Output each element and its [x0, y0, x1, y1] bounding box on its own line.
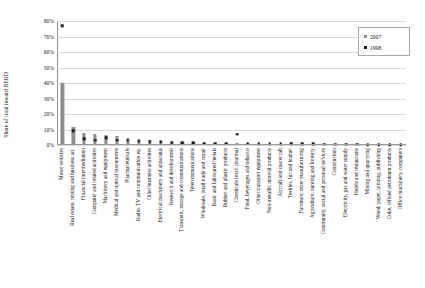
x-tick-label: Other business activities — [147, 148, 153, 200]
category-slot — [188, 21, 199, 145]
x-tick-label: Machinery and equipment — [103, 148, 109, 204]
x-label-slot: Aircraft and spacecraft — [275, 148, 286, 286]
x-axis-line — [57, 144, 406, 145]
x-tick-label: Rubber and plastic products — [223, 148, 229, 207]
category-slot — [319, 21, 330, 145]
x-tick-label: Pharmaceuticals — [125, 148, 131, 183]
y-tick-label: 50% — [14, 65, 54, 71]
x-label-slot: Machinery and equipment — [101, 148, 112, 286]
category-slot — [341, 21, 352, 145]
category-slot — [155, 21, 166, 145]
category-slot — [330, 21, 341, 145]
x-label-slot: Office machinery, computers — [395, 148, 406, 286]
category-slot — [101, 21, 112, 145]
x-tick-label: Mining and quarrying — [365, 148, 371, 195]
series-container — [57, 21, 406, 145]
bar-2007 — [61, 83, 64, 145]
y-tick-label: 70% — [14, 34, 54, 40]
x-label-slot: Furniture, other manufacturing — [297, 148, 308, 286]
category-slot — [57, 21, 68, 145]
legend-label-1998: 1998 — [370, 45, 381, 51]
x-tick-label: Construction — [332, 148, 338, 175]
x-tick-label: Community, social and personal services — [321, 148, 327, 235]
legend-swatch-1998 — [364, 46, 367, 49]
x-label-slot: Medical and optical instruments — [112, 148, 123, 286]
x-tick-label: Textiles, fur and leather — [289, 148, 295, 198]
y-tick-label: 80% — [14, 18, 54, 24]
x-label-slot: Other transport equipment — [253, 148, 264, 286]
marker-1998 — [116, 139, 119, 142]
category-slot — [221, 21, 232, 145]
y-tick-label: 30% — [14, 96, 54, 102]
y-tick-label: 40% — [14, 80, 54, 86]
y-tick-label: 0% — [14, 142, 54, 148]
marker-1998 — [148, 141, 151, 144]
category-slot — [133, 21, 144, 145]
x-label-slot: Construction — [330, 148, 341, 286]
x-tick-label: Radio, TV and communication eq. — [136, 148, 142, 221]
x-label-slot: Transport, storage and communications — [177, 148, 188, 286]
category-slot — [112, 21, 123, 145]
x-tick-label: Agriculture, hunting and forestry — [311, 148, 317, 218]
x-label-slot: Wood, paper, printing, publishing — [373, 148, 384, 286]
category-slot — [253, 21, 264, 145]
category-slot — [79, 21, 90, 145]
chart-figure: Share of total inward BERD 80%70%60%50%4… — [0, 0, 425, 288]
category-slot — [297, 21, 308, 145]
x-label-slot: Coke, refined petroleum products — [384, 148, 395, 286]
x-label-slot: Electricity, gas and water supply — [341, 148, 352, 286]
marker-1998 — [94, 139, 97, 142]
x-tick-label: Motor vehicles — [60, 148, 66, 180]
legend-item-1998: 1998 — [364, 42, 409, 53]
y-axis-title: Share of total inward BERD — [1, 43, 11, 167]
category-slot — [242, 21, 253, 145]
legend-item-2007: 2007 — [364, 31, 409, 42]
x-label-slot: Financial intermediation — [79, 148, 90, 286]
x-tick-label: Computer and related activities — [92, 148, 98, 214]
x-tick-label: Transport, storage and communications — [180, 148, 186, 232]
category-slot — [264, 21, 275, 145]
x-tick-label: Chemicals (excl. pharma) — [234, 148, 240, 203]
x-label-slot: Food, beverages and tobacco — [242, 148, 253, 286]
legend-label-2007: 2007 — [370, 34, 381, 40]
x-label-slot: Computer and related activities — [90, 148, 101, 286]
category-slot — [275, 21, 286, 145]
x-label-slot: Hotels and restaurants — [351, 148, 362, 286]
plot-area — [57, 21, 406, 145]
x-tick-label: Hotels and restaurants — [354, 148, 360, 195]
x-tick-label: Non-metallic mineral products — [267, 148, 273, 213]
x-tick-label: Medical and optical instruments — [114, 148, 120, 216]
x-label-slot: Wholesale, retail trade and repair — [199, 148, 210, 286]
marker-1998 — [127, 139, 130, 142]
x-label-slot: Textiles, fur and leather — [286, 148, 297, 286]
x-label-slot: Non-metallic mineral products — [264, 148, 275, 286]
x-tick-label: Wood, paper, printing, publishing — [376, 148, 382, 219]
x-tick-label: Real estate, renting and business act. — [71, 148, 77, 226]
category-slot — [90, 21, 101, 145]
x-label-slot: Research and development — [166, 148, 177, 286]
x-label-slot: Rubber and plastic products — [221, 148, 232, 286]
x-tick-label: Coke, refined petroleum products — [387, 148, 393, 219]
x-tick-label: Other transport equipment — [256, 148, 262, 204]
x-label-slot: Chemicals (excl. pharma) — [232, 148, 243, 286]
marker-1998 — [159, 141, 162, 144]
category-slot — [166, 21, 177, 145]
category-slot — [308, 21, 319, 145]
x-label-slot: Telecommunications — [188, 148, 199, 286]
x-tick-label: Furniture, other manufacturing — [300, 148, 306, 213]
x-label-slot: Electrical machinery and apparatus — [155, 148, 166, 286]
x-tick-label: Office machinery, computers — [398, 148, 404, 209]
category-slot — [177, 21, 188, 145]
gridline — [57, 145, 406, 146]
category-slot — [68, 21, 79, 145]
x-label-slot: Radio, TV and communication eq. — [133, 148, 144, 286]
marker-1998 — [105, 137, 108, 140]
x-label-slot: Pharmaceuticals — [122, 148, 133, 286]
x-label-slot: Mining and quarrying — [362, 148, 373, 286]
x-label-slot: Other business activities — [144, 148, 155, 286]
category-slot — [122, 21, 133, 145]
x-tick-label: Wholesale, retail trade and repair — [201, 148, 207, 218]
x-label-slot: Agriculture, hunting and forestry — [308, 148, 319, 286]
marker-1998 — [138, 140, 141, 143]
x-tick-label: Electricity, gas and water supply — [343, 148, 349, 217]
